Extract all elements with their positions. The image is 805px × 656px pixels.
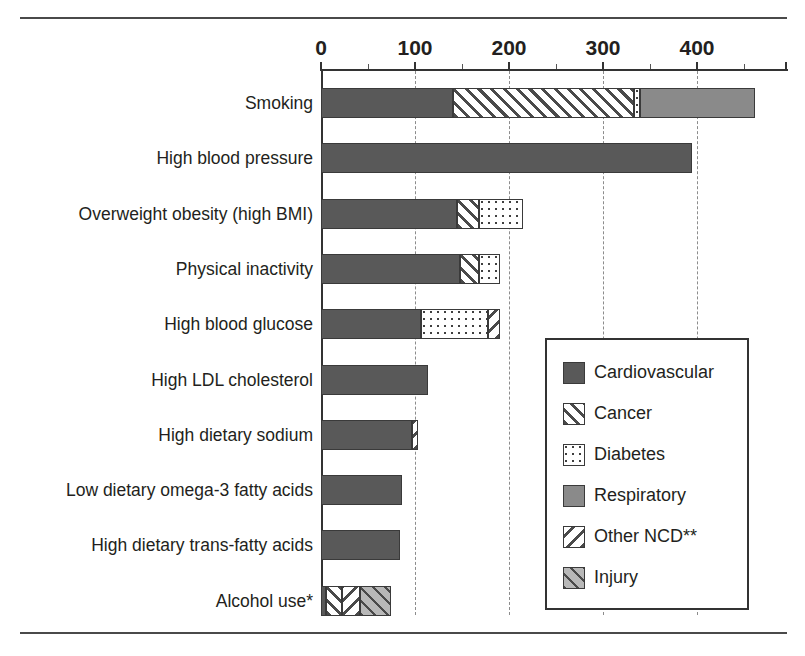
bar-segment-other-ncd <box>488 309 499 339</box>
bar-segment-diabetes <box>421 309 489 339</box>
bar-segment-cardiovascular <box>321 88 453 118</box>
x-tick-label-400: 400 <box>679 36 714 60</box>
bar-row <box>321 530 400 560</box>
category-label: Overweight obesity (high BMI) <box>13 203 313 224</box>
legend-label-other-ncd: Other NCD** <box>594 526 697 547</box>
x-tick-label-100: 100 <box>397 36 432 60</box>
legend-swatch-injury <box>563 567 585 589</box>
x-minor-tick-150 <box>462 64 463 69</box>
legend-item-respiratory: Respiratory <box>547 475 747 516</box>
bar-segment-cancer <box>457 199 479 229</box>
bar-segment-cardiovascular <box>321 420 412 450</box>
legend-item-cancer: Cancer <box>547 393 747 434</box>
x-tick-label-0: 0 <box>315 36 327 60</box>
legend-label-diabetes: Diabetes <box>594 444 665 465</box>
bar-segment-cancer <box>453 88 634 118</box>
x-minor-tick-350 <box>650 64 651 69</box>
x-tick-400 <box>696 62 698 71</box>
x-tick-300 <box>602 62 604 71</box>
bar-row <box>321 309 500 339</box>
bar-segment-cardiovascular <box>321 530 400 560</box>
x-tick-100 <box>414 62 416 71</box>
x-tick-label-200: 200 <box>491 36 526 60</box>
chart-figure: 0100200300400 SmokingHigh blood pressure… <box>0 0 805 656</box>
bar-segment-cardiovascular <box>321 254 460 284</box>
bar-row <box>321 143 692 173</box>
bar-segment-cardiovascular <box>321 199 457 229</box>
category-label: High blood pressure <box>13 148 313 169</box>
bar-segment-diabetes <box>479 199 523 229</box>
x-axis-end-cap <box>785 62 787 71</box>
bar-row <box>321 88 755 118</box>
bar-row <box>321 254 500 284</box>
bar-segment-injury <box>360 586 391 616</box>
bar-row <box>321 420 418 450</box>
bar-row <box>321 475 402 505</box>
bar-row <box>321 586 392 616</box>
legend-swatch-other-ncd <box>563 526 585 548</box>
bar-row <box>321 365 428 395</box>
x-minor-tick-50 <box>368 64 369 69</box>
category-label: High blood glucose <box>13 314 313 335</box>
legend-swatch-cardiovascular <box>563 362 585 384</box>
legend-label-cardiovascular: Cardiovascular <box>594 362 714 383</box>
x-minor-tick-250 <box>556 64 557 69</box>
category-label: Physical inactivity <box>13 258 313 279</box>
bar-segment-cardiovascular <box>321 143 692 173</box>
legend-item-other-ncd: Other NCD** <box>547 516 747 557</box>
category-label: Low dietary omega-3 fatty acids <box>13 480 313 501</box>
chart-legend: Cardiovascular Cancer Diabetes Respirato… <box>545 338 749 610</box>
category-label: High dietary sodium <box>13 424 313 445</box>
bar-segment-cardiovascular <box>321 475 402 505</box>
category-labels: SmokingHigh blood pressureOverweight obe… <box>10 0 313 656</box>
x-tick-200 <box>508 62 510 71</box>
legend-swatch-diabetes <box>563 444 585 466</box>
bar-segment-cardiovascular <box>321 309 421 339</box>
legend-swatch-cancer <box>563 403 585 425</box>
category-label: High dietary trans-fatty acids <box>13 535 313 556</box>
bar-segment-diabetes <box>479 254 500 284</box>
legend-swatch-respiratory <box>563 485 585 507</box>
legend-label-respiratory: Respiratory <box>594 485 686 506</box>
legend-item-diabetes: Diabetes <box>547 434 747 475</box>
legend-label-cancer: Cancer <box>594 403 652 424</box>
category-label: Alcohol use* <box>13 590 313 611</box>
category-label: Smoking <box>13 93 313 114</box>
bar-row <box>321 199 523 229</box>
category-label: High LDL cholesterol <box>13 369 313 390</box>
x-axis-line <box>321 69 788 71</box>
bar-segment-respiratory <box>640 88 756 118</box>
bar-segment-other-ncd <box>412 420 418 450</box>
legend-item-injury: Injury <box>547 557 747 598</box>
x-tick-0 <box>320 62 322 71</box>
bar-segment-other-ncd <box>342 586 361 616</box>
bar-segment-cardiovascular <box>321 365 428 395</box>
legend-label-injury: Injury <box>594 567 638 588</box>
bar-segment-cancer <box>326 586 342 616</box>
bar-segment-cancer <box>460 254 479 284</box>
x-minor-tick-450 <box>744 64 745 69</box>
x-tick-label-300: 300 <box>585 36 620 60</box>
legend-item-cardiovascular: Cardiovascular <box>547 352 747 393</box>
